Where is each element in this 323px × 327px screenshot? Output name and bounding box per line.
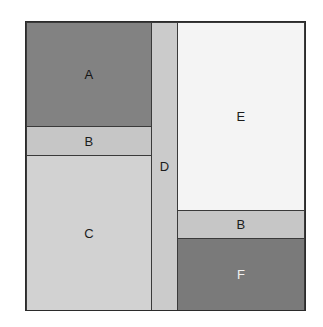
region-f-label: F [237, 268, 245, 281]
region-b-left[interactable]: B [26, 126, 152, 156]
region-f[interactable]: F [177, 238, 305, 311]
diagram-frame: A B C D E B F [25, 21, 306, 311]
region-b-left-label: B [85, 135, 94, 148]
region-c-label: C [84, 227, 94, 240]
region-e[interactable]: E [177, 22, 305, 211]
region-a-label: A [85, 68, 94, 81]
region-e-label: E [237, 110, 246, 123]
region-b-right-label: B [237, 218, 246, 231]
region-d-label: D [160, 160, 170, 173]
region-d[interactable]: D [151, 22, 178, 311]
region-c[interactable]: C [26, 155, 152, 311]
diagram-canvas: A B C D E B F [0, 0, 323, 327]
region-b-right[interactable]: B [177, 210, 305, 239]
region-a[interactable]: A [26, 22, 152, 127]
